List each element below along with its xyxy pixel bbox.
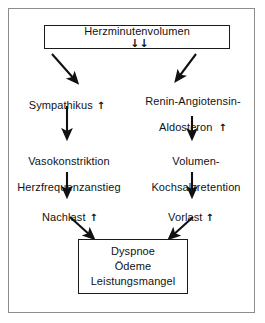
preload-trend-icon: ↑: [205, 212, 213, 223]
node-cardiac-output: Herzminutenvolumen↓↓: [44, 25, 230, 49]
edge-hmv-sympathikus: [52, 54, 75, 80]
afterload-trend-icon: ↑: [90, 212, 98, 223]
node-preload: Vorlast↑: [146, 198, 236, 224]
diagram-canvas: Herzminutenvolumen↓↓ Sympathikus↑ Renin-…: [0, 0, 265, 323]
node-afterload-label: Nachlast: [42, 211, 86, 223]
node-vasoconstriction-label-line2: Herzfrequenzanstieg: [17, 181, 120, 193]
node-symptoms: Dyspnoe Ödeme Leistungsmangel: [78, 239, 188, 294]
edge-hmv-raas: [178, 54, 196, 78]
cardiac-output-trend-icon: ↓↓: [130, 37, 149, 50]
node-sympathetic-label: Sympathikus: [29, 99, 93, 111]
node-afterload: Nachlast↑: [24, 198, 116, 224]
node-symptoms-line1: Dyspnoe: [111, 244, 155, 259]
node-symptoms-line3: Leistungsmangel: [91, 274, 176, 289]
node-preload-label: Vorlast: [168, 211, 202, 223]
node-vasoconstriction-label-line1: Vasokonstriktion: [28, 155, 110, 167]
node-raas: Renin-Angiotensin- Aldosteron↑: [131, 82, 255, 147]
node-sympathetic: Sympathikus↑: [12, 86, 122, 112]
node-volume-retention-label-line1: Volumen-: [172, 155, 219, 167]
sympathetic-trend-icon: ↑: [97, 100, 105, 111]
node-raas-label-line1: Renin-Angiotensin-: [145, 95, 240, 107]
node-cardiac-output-label: Herzminutenvolumen: [84, 25, 190, 37]
node-raas-label-line2: Aldosteron: [159, 121, 213, 133]
node-volume-retention-label-line2: Kochsalzretention: [151, 181, 240, 193]
raas-trend-icon: ↑: [219, 122, 227, 133]
node-symptoms-line2: Ödeme: [115, 259, 152, 274]
